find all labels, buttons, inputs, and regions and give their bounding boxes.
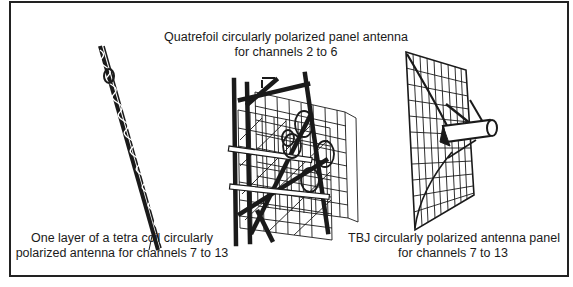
tetra-coil-caption-line-1: One layer of a tetra coil circularly	[14, 231, 230, 246]
tbj-panel-drawing	[406, 52, 497, 230]
quatrefoil-caption-line-2: for channels 2 to 6	[160, 45, 412, 60]
tetra-coil-caption: One layer of a tetra coil circularly pol…	[14, 231, 230, 261]
tbj-caption: TBJ circularly polarized antenna panel f…	[348, 231, 558, 261]
tetra-coil-drawing	[100, 46, 170, 256]
tbj-caption-line-2: for channels 7 to 13	[348, 246, 558, 261]
tbj-caption-line-1: TBJ circularly polarized antenna panel	[348, 231, 558, 246]
tetra-coil-caption-line-2: polarized antenna for channels 7 to 13	[14, 246, 230, 261]
quatrefoil-caption-line-1: Quatrefoil circularly polarized panel an…	[160, 30, 412, 45]
quatrefoil-caption: Quatrefoil circularly polarized panel an…	[160, 30, 412, 60]
quatrefoil-drawing	[228, 74, 358, 244]
